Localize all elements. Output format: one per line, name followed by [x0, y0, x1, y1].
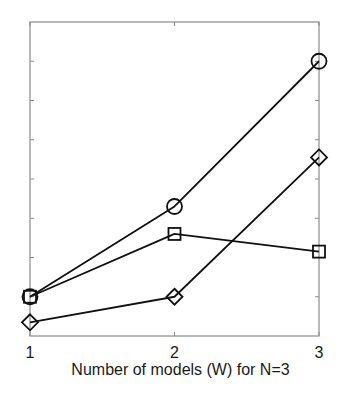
circle-series [23, 54, 327, 305]
x-tick-label: 1 [26, 344, 35, 361]
x-tick-label: 3 [315, 344, 324, 361]
x-axis-label: Number of models (W) for N=3 [71, 361, 289, 378]
x-axis-tick-labels: 123 [26, 344, 324, 361]
line-chart: 123 Number of models (W) for N=3 [0, 0, 342, 401]
square-series-line [30, 234, 319, 297]
square-series [24, 228, 325, 303]
y-axis-ticks [30, 61, 319, 297]
series-layer [22, 54, 327, 331]
circle-series-line [30, 61, 319, 297]
x-tick-label: 2 [170, 344, 179, 361]
